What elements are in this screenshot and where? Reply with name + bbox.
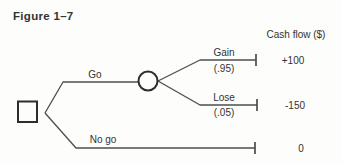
gain-cash-flow-value: +100 bbox=[282, 55, 305, 66]
gain-branch-line bbox=[158, 60, 256, 81]
no-go-branch-line bbox=[45, 113, 255, 148]
no-go-cash-flow-value: 0 bbox=[298, 143, 304, 154]
lose-branch-label: Lose bbox=[213, 92, 235, 103]
lose-branch-line bbox=[158, 81, 257, 105]
figure-canvas: Figure 1–7 Cash flow ($) Go No go Gain (… bbox=[0, 0, 342, 164]
gain-branch-label: Gain bbox=[213, 47, 234, 58]
go-branch-line bbox=[45, 82, 139, 113]
decision-node-square bbox=[18, 102, 37, 123]
cash-flow-column-header: Cash flow ($) bbox=[267, 29, 326, 40]
lose-cash-flow-value: -150 bbox=[285, 100, 305, 111]
figure-title: Figure 1–7 bbox=[13, 10, 74, 22]
lose-probability-label: (.05) bbox=[214, 107, 235, 118]
go-branch-label: Go bbox=[88, 69, 102, 80]
decision-tree-diagram: Figure 1–7 Cash flow ($) Go No go Gain (… bbox=[0, 0, 342, 164]
gain-probability-label: (.95) bbox=[214, 63, 235, 74]
chance-node-circle bbox=[139, 72, 158, 91]
no-go-branch-label: No go bbox=[90, 134, 117, 145]
